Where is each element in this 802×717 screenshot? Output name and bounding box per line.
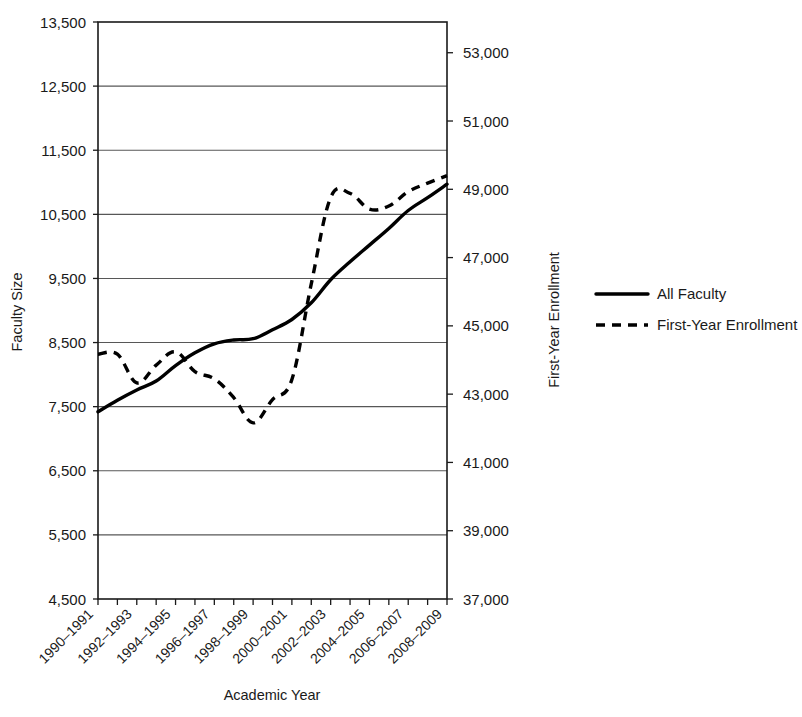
y-axis-right-title: First-Year Enrollment [546, 252, 562, 388]
y-axis-right-tick-label: 51,000 [463, 113, 509, 130]
y-axis-right-tick-label: 39,000 [463, 522, 509, 539]
y-axis-left-tick-label: 6,500 [48, 462, 86, 479]
x-axis-title: Academic Year [224, 687, 321, 703]
y-axis-left-tick-label: 9,500 [48, 270, 86, 287]
y-axis-left-title-text: Faculty Size [9, 273, 25, 352]
y-axis-left-tick-label: 10,500 [40, 206, 86, 223]
y-axis-left-tick-label: 11,500 [41, 142, 86, 159]
legend: All Faculty First-Year Enrollment [596, 285, 798, 333]
y-axis-left-title: Faculty Size [9, 273, 25, 352]
y-axis-right-tick-label: 41,000 [463, 454, 509, 471]
y-axis-left-tick-labels: 4,5005,5006,5007,5008,5009,50010,50011,5… [40, 14, 86, 608]
y-axis-right-tick-label: 37,000 [463, 591, 509, 608]
y-axis-right-tick-label: 45,000 [463, 317, 509, 334]
y-axis-right-tick-labels: 37,00039,00041,00043,00045,00047,00049,0… [463, 44, 509, 607]
y-axis-left-tick-label: 7,500 [48, 398, 86, 415]
plot-frame [98, 22, 447, 599]
x-axis-ticks [98, 599, 447, 605]
y-axis-right-tick-label: 47,000 [463, 249, 509, 266]
legend-label-first-year-enrollment: First-Year Enrollment [657, 316, 798, 333]
line-chart: 4,5005,5006,5007,5008,5009,50010,50011,5… [0, 0, 802, 717]
y-axis-right-tick-label: 53,000 [463, 44, 509, 61]
x-axis-title-text: Academic Year [224, 687, 321, 703]
y-axis-left-tick-label: 8,500 [48, 334, 86, 351]
y-axis-right-tick-label: 43,000 [463, 386, 509, 403]
y-axis-right-tick-label: 49,000 [463, 181, 509, 198]
y-axis-left-tick-label: 4,500 [48, 591, 86, 608]
series-all-faculty [98, 184, 447, 412]
legend-label-all-faculty: All Faculty [657, 285, 727, 302]
y-axis-right-title-text: First-Year Enrollment [546, 252, 562, 388]
x-axis-tick-labels: 1990–19911992–19931994–19951996–19971998… [35, 606, 445, 667]
y-axis-right-ticks [447, 53, 453, 599]
y-axis-left-tick-label: 13,500 [40, 14, 86, 31]
y-axis-left-tick-label: 5,500 [48, 526, 86, 543]
gridlines [98, 86, 447, 535]
y-axis-left-tick-label: 12,500 [40, 78, 86, 95]
chart-container: 4,5005,5006,5007,5008,5009,50010,50011,5… [0, 0, 802, 717]
